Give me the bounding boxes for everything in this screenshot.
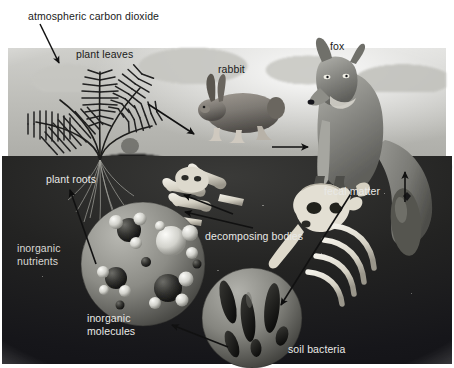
label-rabbit: rabbit	[218, 63, 245, 76]
label-atmospheric-carbon-dioxide: atmospheric carbon dioxide	[28, 10, 159, 23]
label-inorganic-molecules: inorganic molecules	[87, 312, 135, 337]
soil-layer	[2, 156, 452, 364]
label-fecal-matter: fecal matter	[324, 185, 380, 198]
carbon-cycle-diagram: atmospheric carbon dioxide plant leaves …	[0, 0, 454, 368]
label-decomposing-bodies: decomposing bodies	[205, 230, 303, 243]
label-fox: fox	[330, 40, 344, 53]
label-soil-bacteria: soil bacteria	[288, 343, 345, 356]
label-plant-roots: plant roots	[46, 173, 96, 186]
label-plant-leaves: plant leaves	[76, 48, 133, 61]
label-inorganic-nutrients: inorganic nutrients	[17, 242, 61, 267]
